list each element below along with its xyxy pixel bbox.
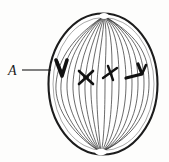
spindle-pole-top <box>99 13 109 19</box>
cell-outline-group <box>49 14 158 155</box>
label-a-group: A <box>7 63 51 78</box>
cell-membrane-outline <box>49 14 158 155</box>
figure-canvas: Cell in mitosis with spindle and chromos… <box>0 0 169 162</box>
mitosis-cell-diagram: Cell in mitosis with spindle and chromos… <box>0 0 169 162</box>
spindle-pole-bottom <box>95 149 107 155</box>
label-a-text: A <box>7 63 17 78</box>
